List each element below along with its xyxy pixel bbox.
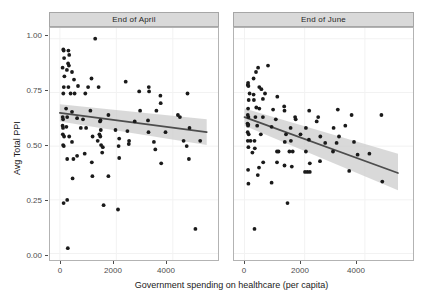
y-tick-mark	[45, 35, 48, 36]
x-tick-mark	[60, 261, 61, 264]
x-tick-label: 0	[229, 266, 259, 275]
y-tick-mark	[45, 145, 48, 146]
y-tick-label: 1.00	[12, 31, 42, 40]
y-tick-mark	[45, 90, 48, 91]
facet-strip-june: End of June	[233, 12, 414, 27]
y-tick-label: 0.50	[12, 141, 42, 150]
x-tick-mark	[166, 261, 167, 264]
x-tick-label: 4000	[151, 266, 181, 275]
y-tick-mark	[45, 200, 48, 201]
x-axis-label: Government spending on healthcare (per c…	[49, 280, 414, 290]
x-tick-label: 0	[45, 266, 75, 275]
x-tick-mark	[113, 261, 114, 264]
x-tick-mark	[244, 261, 245, 264]
x-tick-mark	[356, 261, 357, 264]
x-tick-mark	[300, 261, 301, 264]
x-tick-label: 4000	[341, 266, 371, 275]
chart-root: Avg Total PPI 1.00 0.75 0.50 0.25 0.00 E…	[0, 0, 428, 299]
facet-strip-april: End of April	[49, 12, 219, 27]
y-tick-mark	[45, 255, 48, 256]
facet-strip-label: End of April	[112, 15, 155, 24]
x-tick-label: 2000	[285, 266, 315, 275]
facet-panel-june	[233, 27, 414, 261]
facet-panel-april	[49, 27, 219, 261]
x-tick-label: 2000	[98, 266, 128, 275]
y-tick-label: 0.75	[12, 86, 42, 95]
y-tick-label: 0.25	[12, 196, 42, 205]
y-tick-label: 0.00	[12, 251, 42, 260]
facet-strip-label: End of June	[301, 15, 346, 24]
